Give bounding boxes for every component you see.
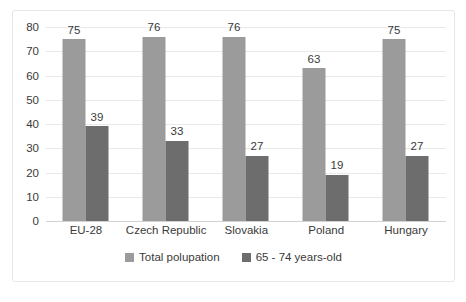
- bar-total[interactable]: 63: [303, 68, 326, 221]
- x-axis-label-poland: Poland: [286, 224, 366, 236]
- bar-elderly[interactable]: 27: [246, 156, 269, 221]
- bar-pair: 7627: [223, 27, 270, 221]
- bar-chart-figure: 8070605040302010075397633762763197527 EU…: [12, 10, 455, 282]
- bar-value-label: 39: [91, 112, 104, 124]
- chart-legend: Total polupation65 - 74 years-old: [13, 251, 454, 263]
- bar-value-label: 76: [228, 22, 241, 34]
- bar-group-slovakia: 7627: [206, 27, 286, 221]
- bar-group-eu-28: 7539: [46, 27, 126, 221]
- x-axis-labels: EU-28Czech RepublicSlovakiaPolandHungary: [46, 224, 446, 236]
- bar-value-label: 75: [68, 25, 81, 37]
- bar-elderly[interactable]: 27: [406, 156, 429, 221]
- y-axis-tick-20: 20: [26, 167, 39, 179]
- gridline-0: [46, 221, 446, 222]
- bar-value-label: 27: [251, 141, 264, 153]
- bar-pair: 7633: [143, 27, 190, 221]
- y-axis-tick-70: 70: [26, 45, 39, 57]
- bar-total[interactable]: 76: [223, 37, 246, 221]
- bar-value-label: 75: [388, 25, 401, 37]
- plot-area: 8070605040302010075397633762763197527: [46, 27, 446, 221]
- bar-value-label: 76: [148, 22, 161, 34]
- bar-value-label: 63: [308, 54, 321, 66]
- bar-elderly[interactable]: 39: [86, 126, 109, 221]
- bar-value-label: 19: [331, 160, 344, 172]
- x-axis-label-czech-republic: Czech Republic: [126, 224, 207, 236]
- x-axis-label-eu-28: EU-28: [46, 224, 126, 236]
- bar-total[interactable]: 76: [143, 37, 166, 221]
- bar-groups: 75397633762763197527: [46, 27, 446, 221]
- legend-label: Total polupation: [139, 251, 220, 263]
- y-axis-tick-60: 60: [26, 70, 39, 82]
- legend-item-total[interactable]: Total polupation: [125, 251, 220, 263]
- x-axis-label-slovakia: Slovakia: [206, 224, 286, 236]
- bar-pair: 7527: [383, 27, 430, 221]
- x-axis-label-hungary: Hungary: [366, 224, 446, 236]
- bar-elderly[interactable]: 33: [166, 141, 189, 221]
- y-axis-tick-0: 0: [33, 215, 39, 227]
- legend-label: 65 - 74 years-old: [256, 251, 342, 263]
- y-axis-tick-40: 40: [26, 118, 39, 130]
- bar-group-hungary: 7527: [366, 27, 446, 221]
- bar-value-label: 33: [171, 126, 184, 138]
- bar-elderly[interactable]: 19: [326, 175, 349, 221]
- bar-pair: 7539: [63, 27, 110, 221]
- legend-swatch-icon: [125, 253, 134, 262]
- bar-group-czech-republic: 7633: [126, 27, 206, 221]
- y-axis-tick-10: 10: [26, 191, 39, 203]
- y-axis-tick-80: 80: [26, 21, 39, 33]
- legend-item-elderly[interactable]: 65 - 74 years-old: [242, 251, 342, 263]
- bar-total[interactable]: 75: [63, 39, 86, 221]
- y-axis-tick-50: 50: [26, 94, 39, 106]
- bar-group-poland: 6319: [286, 27, 366, 221]
- bar-value-label: 27: [411, 141, 424, 153]
- bar-total[interactable]: 75: [383, 39, 406, 221]
- bar-pair: 6319: [303, 27, 350, 221]
- legend-swatch-icon: [242, 253, 251, 262]
- y-axis-tick-30: 30: [26, 142, 39, 154]
